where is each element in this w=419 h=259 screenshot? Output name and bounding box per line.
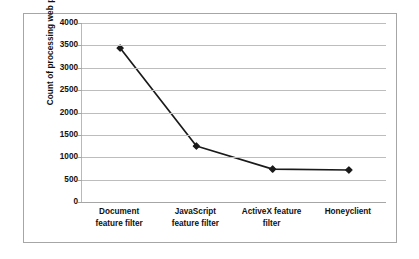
data-point-marker: [270, 166, 276, 172]
y-tick-label: 4000: [48, 18, 78, 28]
y-tick-label: 1500: [48, 130, 78, 140]
y-tick-label: 0: [48, 197, 78, 207]
y-tick-label: 2500: [48, 85, 78, 95]
y-tick-mark: [78, 113, 82, 114]
x-axis-line: [82, 202, 386, 203]
gridline: [82, 68, 386, 69]
plot-area: [81, 23, 386, 202]
y-tick-label: 3500: [48, 40, 78, 50]
y-tick-mark: [78, 135, 82, 136]
data-point-marker: [346, 167, 352, 173]
y-tick-label: 3000: [48, 63, 78, 73]
gridline: [82, 23, 386, 24]
y-tick-label: 500: [48, 175, 78, 185]
x-tick-label-line: ActiveX feature: [234, 206, 310, 218]
y-tick-mark: [78, 68, 82, 69]
x-tick-label-line: Document: [81, 206, 157, 218]
y-tick-mark: [78, 45, 82, 46]
y-axis-tick-labels: 05001000150020002500300035004000: [48, 23, 78, 202]
y-tick-mark: [78, 202, 82, 203]
x-tick-label: Honeyclient: [310, 206, 386, 218]
y-tick-mark: [78, 157, 82, 158]
gridline: [82, 135, 386, 136]
x-tick-label-line: filter: [234, 218, 310, 230]
x-tick-label-line: feature filter: [157, 218, 233, 230]
x-tick-label: JavaScriptfeature filter: [157, 206, 233, 229]
chart-frame: Count of processing web pages 0500100015…: [23, 13, 397, 243]
x-tick-label-line: JavaScript: [157, 206, 233, 218]
gridline: [82, 180, 386, 181]
x-tick-label-line: feature filter: [81, 218, 157, 230]
x-axis-tick-labels: Documentfeature filterJavaScriptfeature …: [81, 206, 386, 240]
gridline: [82, 157, 386, 158]
gridline: [82, 45, 386, 46]
y-tick-label: 1000: [48, 152, 78, 162]
y-tick-mark: [78, 180, 82, 181]
gridline: [82, 113, 386, 114]
y-tick-label: 2000: [48, 108, 78, 118]
y-tick-mark: [78, 23, 82, 24]
gridline: [82, 90, 386, 91]
x-tick-label-line: Honeyclient: [310, 206, 386, 218]
x-tick-label: Documentfeature filter: [81, 206, 157, 229]
series-line: [120, 48, 349, 170]
y-tick-mark: [78, 90, 82, 91]
x-tick-label: ActiveX featurefilter: [234, 206, 310, 229]
